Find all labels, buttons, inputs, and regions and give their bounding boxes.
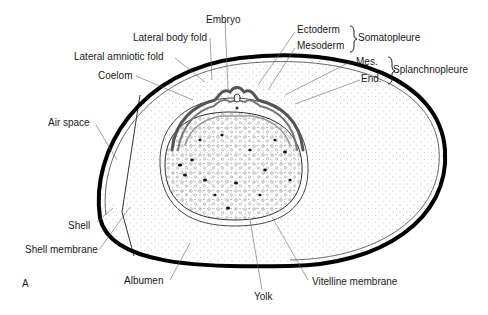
label-ectoderm: Ectoderm — [297, 24, 340, 35]
label-air-space: Air space — [48, 117, 90, 128]
label-albumen: Albumen — [124, 275, 163, 286]
label-shell: Shell — [68, 220, 90, 231]
label-coelom: Coelom — [98, 70, 132, 81]
label-embryo: Embryo — [206, 14, 240, 25]
label-lateral-amniotic-fold: Lateral amniotic fold — [74, 51, 164, 62]
label-end: End. — [361, 73, 382, 84]
label-lateral-body-fold: Lateral body fold — [133, 32, 207, 43]
label-somatopleure: Somatopleure — [358, 32, 420, 43]
label-vitelline-membrane: Vitelline membrane — [312, 276, 397, 287]
label-mes: Mes. — [356, 56, 378, 67]
somatopleure-brace — [350, 26, 357, 52]
label-yolk: Yolk — [254, 291, 273, 302]
label-shell-membrane: Shell membrane — [25, 244, 98, 255]
egg-diagram — [0, 0, 488, 315]
panel-letter: A — [22, 278, 29, 289]
label-mesoderm: Mesoderm — [297, 40, 344, 51]
label-splanchnopleure: Splanchnopleure — [393, 64, 468, 75]
